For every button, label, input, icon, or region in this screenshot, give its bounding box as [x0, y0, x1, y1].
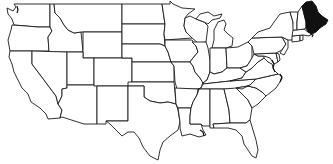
state-oregon[interactable] — [8, 25, 52, 51]
us-map-svg — [0, 0, 333, 164]
state-florida[interactable] — [213, 120, 258, 158]
state-new-york[interactable] — [252, 12, 294, 40]
state-arizona[interactable] — [58, 85, 97, 124]
state-wyoming[interactable] — [83, 32, 122, 58]
state-michigan[interactable] — [212, 20, 233, 48]
state-north-dakota[interactable] — [122, 4, 165, 24]
state-maine[interactable] — [302, 1, 328, 34]
state-rhode-island[interactable] — [300, 35, 303, 41]
state-south-dakota[interactable] — [122, 24, 165, 46]
state-kansas[interactable] — [132, 62, 174, 82]
state-colorado[interactable] — [94, 58, 132, 86]
us-map — [0, 0, 333, 164]
state-new-mexico[interactable] — [97, 86, 128, 124]
state-washington[interactable] — [7, 4, 50, 27]
state-pennsylvania[interactable] — [248, 37, 286, 54]
